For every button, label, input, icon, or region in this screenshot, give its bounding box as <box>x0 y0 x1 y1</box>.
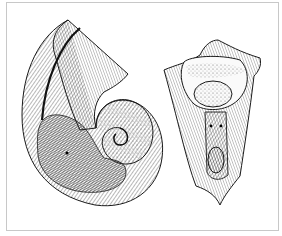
shell-illustration <box>0 0 282 236</box>
apertural-shell <box>164 40 261 205</box>
coiled-shell <box>22 20 163 206</box>
